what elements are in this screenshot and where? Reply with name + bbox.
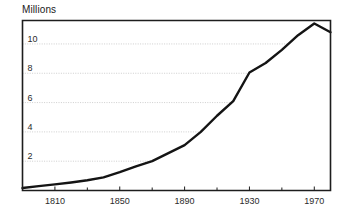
y-tick-label-2: 2 [28, 151, 33, 161]
x-axis-labels: 18101850189019301970 [45, 196, 324, 206]
population-line-chart: Millions 246810 18101850189019301970 [0, 0, 345, 211]
chart-canvas: 246810 18101850189019301970 [0, 0, 345, 211]
series-line-population [23, 23, 331, 188]
y-tick-label-6: 6 [28, 93, 33, 103]
gridlines-group [23, 44, 289, 161]
y-tick-label-10: 10 [28, 34, 38, 44]
y-tick-label-4: 4 [28, 122, 33, 132]
x-tick-label-1810: 1810 [45, 196, 65, 206]
y-axis-labels: 246810 [28, 34, 38, 161]
x-tick-label-1850: 1850 [110, 196, 130, 206]
y-tick-label-8: 8 [28, 63, 33, 73]
series-group [23, 23, 331, 188]
x-tick-label-1930: 1930 [239, 196, 259, 206]
x-tick-label-1890: 1890 [175, 196, 195, 206]
x-tick-label-1970: 1970 [304, 196, 324, 206]
